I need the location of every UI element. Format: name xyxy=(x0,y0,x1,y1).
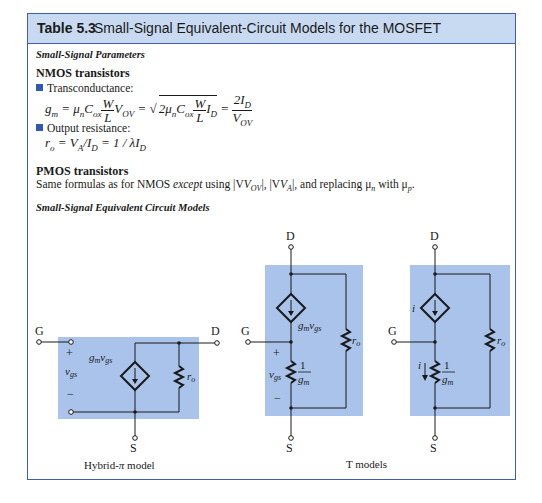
svg-text:−: − xyxy=(67,387,74,401)
svg-text:D: D xyxy=(286,229,295,243)
svg-text:G: G xyxy=(388,324,397,338)
hybrid-pi-circuit: G + vgs − D gmvgs ro xyxy=(35,324,220,471)
t-model-2-circuit: D i G i 1 gm xyxy=(388,229,510,455)
svg-text:S: S xyxy=(430,441,437,455)
svg-text:D: D xyxy=(211,324,220,338)
hybrid-pi-caption: Hybrid-π model xyxy=(84,459,155,471)
circuit-diagrams: G + vgs − D gmvgs ro xyxy=(0,0,542,503)
svg-text:1: 1 xyxy=(444,359,450,371)
svg-text:−: − xyxy=(274,391,281,405)
t-model-1-circuit: D gmvgs G + vgs − 1 gm xyxy=(241,229,363,455)
svg-text:D: D xyxy=(430,229,439,243)
svg-text:1: 1 xyxy=(300,359,306,371)
svg-text:+: + xyxy=(273,346,280,360)
svg-text:G: G xyxy=(35,324,44,338)
svg-text:G: G xyxy=(241,324,250,338)
svg-text:S: S xyxy=(286,441,293,455)
t-models-caption: T models xyxy=(346,458,387,470)
svg-text:i: i xyxy=(412,302,415,314)
svg-text:i: i xyxy=(418,359,421,371)
svg-text:S: S xyxy=(130,441,137,455)
svg-text:+: + xyxy=(66,346,73,360)
